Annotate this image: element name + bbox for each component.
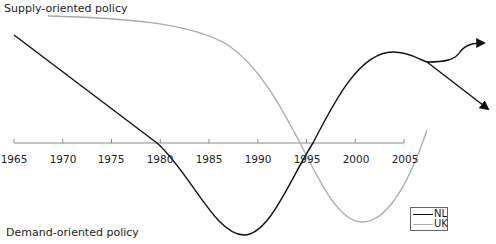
- nl-projection-upper-arrow: [427, 43, 484, 62]
- legend: NL UK: [410, 207, 448, 231]
- tick-label: 1970: [50, 153, 77, 165]
- uk-line: [48, 16, 427, 222]
- legend-label-uk: UK: [434, 218, 448, 229]
- demand-oriented-label: Demand-oriented policy: [6, 226, 139, 239]
- tick-label: 2000: [343, 153, 370, 165]
- nl-projection-lower-arrow: [427, 62, 488, 109]
- supply-oriented-label: Supply-oriented policy: [4, 2, 127, 15]
- legend-swatch-nl: [413, 214, 433, 215]
- legend-swatch-uk: [413, 224, 433, 225]
- tick-label: 1965: [1, 153, 28, 165]
- tick-label: 1980: [147, 153, 174, 165]
- tick-label: 2005: [392, 153, 419, 165]
- legend-item-uk: UK: [413, 219, 449, 230]
- x-axis: [14, 139, 404, 143]
- tick-label: 1985: [196, 153, 223, 165]
- tick-label: 1990: [245, 153, 272, 165]
- tick-label: 1975: [98, 153, 125, 165]
- tick-label: 1995: [294, 153, 321, 165]
- x-axis-ticks: [14, 139, 404, 143]
- nl-line: [14, 35, 427, 235]
